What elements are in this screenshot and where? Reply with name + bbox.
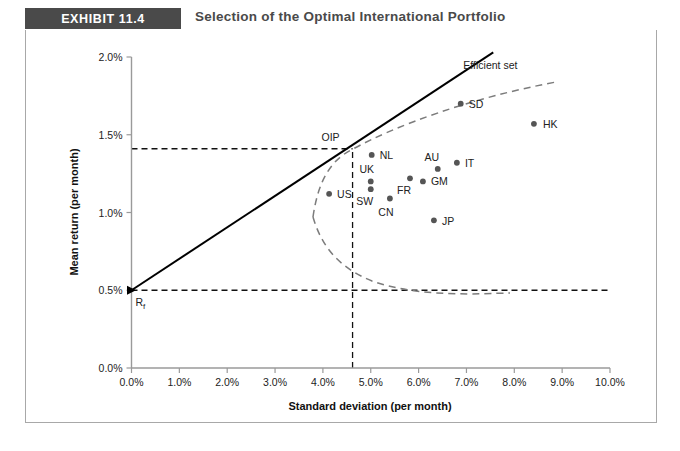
- x-axis-tick-label: 6.0%: [407, 376, 431, 388]
- oip-label: OIP: [322, 131, 340, 143]
- data-point-label-nl: NL: [380, 149, 394, 161]
- y-axis-tick-label: 1.5%: [99, 129, 123, 141]
- data-point-gm[interactable]: [420, 179, 426, 185]
- x-axis-tick-label: 9.0%: [550, 376, 574, 388]
- x-axis-tick-label: 4.0%: [311, 376, 335, 388]
- x-axis-title: Standard deviation (per month): [288, 400, 452, 412]
- data-point-label-sd: SD: [469, 98, 484, 110]
- data-point-it[interactable]: [454, 160, 460, 166]
- data-point-label-hk: HK: [543, 118, 558, 130]
- y-axis-tick-label: 0.5%: [99, 284, 123, 296]
- data-point-label-gm: GM: [431, 175, 448, 187]
- data-point-sw[interactable]: [368, 186, 374, 192]
- data-point-label-jp: JP: [442, 215, 454, 227]
- x-axis-tick-label: 7.0%: [454, 376, 478, 388]
- annotation-efficient-set: Efficient set: [463, 59, 517, 71]
- data-point-nl[interactable]: [369, 152, 375, 158]
- chart-canvas: 0.0%0.5%1.0%1.5%2.0%0.0%1.0%2.0%3.0%4.0%…: [0, 0, 680, 451]
- x-axis-tick-label: 2.0%: [215, 376, 239, 388]
- data-point-label-sw: SW: [356, 195, 373, 207]
- data-point-label-us: US: [337, 188, 352, 200]
- y-axis-tick-label: 2.0%: [99, 51, 123, 63]
- y-axis-title: Mean return (per month): [68, 148, 80, 275]
- data-point-uk[interactable]: [368, 179, 374, 185]
- data-point-cn[interactable]: [387, 196, 393, 202]
- data-point-label-it: IT: [465, 157, 475, 169]
- data-point-label-au: AU: [424, 151, 439, 163]
- data-point-label-cn: CN: [378, 206, 393, 218]
- data-point-au[interactable]: [435, 166, 441, 172]
- y-axis-tick-label: 1.0%: [99, 207, 123, 219]
- rf-label: Rf: [136, 296, 147, 311]
- x-axis-tick-label: 10.0%: [595, 376, 625, 388]
- data-point-jp[interactable]: [431, 217, 437, 223]
- data-point-sd[interactable]: [458, 101, 464, 107]
- data-point-hk[interactable]: [531, 121, 537, 127]
- x-axis-tick-label: 8.0%: [502, 376, 526, 388]
- data-point-fr[interactable]: [407, 175, 413, 181]
- data-point-label-uk: UK: [359, 163, 374, 175]
- x-axis-tick-label: 3.0%: [263, 376, 287, 388]
- x-axis-tick-label: 0.0%: [120, 376, 144, 388]
- x-axis-tick-label: 5.0%: [359, 376, 383, 388]
- data-point-label-fr: FR: [397, 184, 411, 196]
- efficient-frontier-lower: [313, 217, 510, 294]
- data-point-us[interactable]: [326, 191, 332, 197]
- x-axis-tick-label: 1.0%: [167, 376, 191, 388]
- y-axis-tick-label: 0.0%: [99, 362, 123, 374]
- scatter-chart: 0.0%0.5%1.0%1.5%2.0%0.0%1.0%2.0%3.0%4.0%…: [0, 0, 680, 451]
